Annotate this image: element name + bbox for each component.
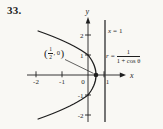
polar-denominator: 1 + cos θ xyxy=(117,57,141,65)
x-axis-arrow-icon xyxy=(120,73,126,78)
one-half-fraction: 12 xyxy=(48,46,53,61)
y-tick-label: 1 xyxy=(80,52,84,60)
y-tick-label: -1 xyxy=(78,92,84,100)
half-denominator: 2 xyxy=(48,54,53,61)
directrix-value: 1 xyxy=(119,27,123,35)
x-tick-label: -2 xyxy=(33,78,39,86)
y-tick-label: -2 xyxy=(78,112,84,120)
directrix-equation: x=1 xyxy=(108,27,123,35)
y-axis-arrow-icon xyxy=(86,17,91,24)
vertex-point-label: (12, 0) xyxy=(44,46,64,61)
point-leader-line xyxy=(65,60,94,74)
figure-33: 33. x y -2-101-2-112 x=1 r=11 + cos θ (1… xyxy=(0,0,163,129)
polar-numerator: 1 xyxy=(117,48,141,57)
directrix-equals: = xyxy=(111,27,119,35)
open-paren: ( xyxy=(44,48,48,59)
polar-equals: = xyxy=(109,52,117,60)
vertex-point-dot xyxy=(94,73,99,78)
half-numerator: 1 xyxy=(48,46,53,54)
x-tick-label: -1 xyxy=(59,78,65,86)
x-tick-label: 1 xyxy=(106,78,110,86)
y-tick-label: 2 xyxy=(80,32,84,40)
x-tick-label: 0 xyxy=(81,78,85,86)
close-paren: ) xyxy=(60,48,64,59)
x-axis-label: x xyxy=(129,71,134,80)
polar-equation: r=11 + cos θ xyxy=(106,48,140,65)
point-label-rest: , 0 xyxy=(53,50,60,57)
y-axis-label: y xyxy=(85,7,90,16)
polar-fraction: 11 + cos θ xyxy=(117,48,141,65)
